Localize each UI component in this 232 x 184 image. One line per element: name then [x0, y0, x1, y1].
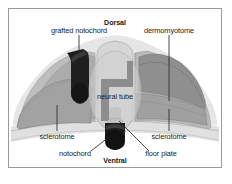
label-ventral: Ventral	[103, 157, 126, 164]
diagram-stage: Dorsal grafted notochord dermomyotome ne…	[9, 9, 221, 167]
figure-container: Dorsal grafted notochord dermomyotome ne…	[0, 0, 232, 184]
label-sclerotome-left: sclerotome	[39, 133, 74, 140]
neural-tube-shape	[89, 41, 141, 131]
label-dorsal: Dorsal	[104, 19, 126, 26]
label-floor-plate: floor plate	[145, 150, 176, 157]
label-sclerotome-right: sclerotome	[151, 133, 186, 140]
label-neural-tube: neural tube	[97, 93, 133, 100]
label-dermomyotome: dermomyotome	[144, 27, 194, 34]
label-notochord: notochord	[59, 150, 91, 157]
label-grafted-notochord: grafted notochord	[51, 27, 107, 34]
right-somite-group	[135, 51, 211, 129]
figure-frame: Dorsal grafted notochord dermomyotome ne…	[8, 8, 222, 168]
notochord-shape	[105, 123, 125, 150]
